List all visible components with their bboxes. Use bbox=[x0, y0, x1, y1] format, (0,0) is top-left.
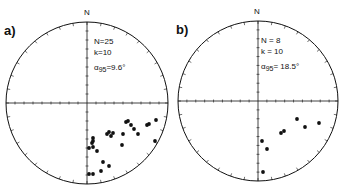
pole-point bbox=[107, 130, 111, 134]
perimeter-tick bbox=[47, 171, 49, 174]
perimeter-tick bbox=[17, 63, 20, 65]
perimeter-tick bbox=[164, 89, 167, 90]
pole-point bbox=[282, 129, 286, 133]
pole-point bbox=[153, 139, 157, 143]
perimeter-tick bbox=[155, 63, 158, 65]
perimeter-tick bbox=[231, 26, 232, 29]
perimeter-tick bbox=[218, 168, 220, 171]
perimeter-tick bbox=[7, 117, 10, 118]
perimeter-tick bbox=[73, 23, 74, 26]
pole-point bbox=[126, 119, 130, 123]
stereonet-panel-b: b) N N = 8 k = 10 α95= 18.5° bbox=[176, 7, 338, 181]
perimeter-tick bbox=[271, 177, 272, 180]
perimeter-tick bbox=[297, 168, 299, 171]
pole-point bbox=[121, 132, 125, 136]
perimeter-tick bbox=[25, 153, 27, 155]
panel-b-n-count: N = 8 bbox=[261, 36, 281, 45]
panel-b-north-label: N bbox=[254, 7, 260, 16]
perimeter-tick bbox=[284, 26, 285, 29]
panel-a-k-value: k=10 bbox=[94, 48, 112, 57]
perimeter-tick bbox=[307, 160, 309, 162]
perimeter-tick bbox=[189, 140, 192, 142]
perimeter-tick bbox=[59, 27, 60, 30]
perimeter-tick bbox=[325, 140, 328, 142]
stereonet-figure: a) N N=25 k=10 α95=9.6° b) N N = 8 k = 1… bbox=[0, 0, 353, 194]
pole-point bbox=[129, 123, 133, 127]
perimeter-tick bbox=[114, 27, 115, 30]
pole-point bbox=[107, 164, 111, 168]
perimeter-tick bbox=[330, 127, 333, 128]
perimeter-tick bbox=[207, 160, 209, 162]
perimeter-tick bbox=[189, 61, 192, 63]
perimeter-tick bbox=[160, 75, 163, 76]
perimeter-tick bbox=[147, 153, 149, 155]
perimeter-tick bbox=[334, 87, 337, 88]
perimeter-tick bbox=[25, 51, 27, 53]
pole-point bbox=[111, 131, 115, 135]
pole-point bbox=[99, 169, 103, 173]
perimeter-tick bbox=[284, 173, 285, 176]
perimeter-tick bbox=[325, 61, 328, 63]
perimeter-tick bbox=[183, 74, 186, 75]
perimeter-tick bbox=[307, 40, 309, 42]
perimeter-tick bbox=[231, 173, 232, 176]
perimeter-tick bbox=[137, 41, 139, 43]
pole-point bbox=[91, 172, 95, 176]
perimeter-tick bbox=[244, 22, 245, 25]
perimeter-tick bbox=[183, 127, 186, 128]
perimeter-tick bbox=[317, 150, 319, 152]
perimeter-tick bbox=[73, 180, 74, 183]
pole-point bbox=[295, 117, 299, 121]
perimeter-tick bbox=[35, 41, 37, 43]
perimeter-tick bbox=[11, 75, 14, 76]
panel-a-label: a) bbox=[4, 23, 16, 38]
perimeter-tick bbox=[197, 50, 199, 52]
pole-point bbox=[265, 147, 269, 151]
perimeter-tick bbox=[317, 50, 319, 52]
panel-a-north-label: N bbox=[84, 8, 90, 17]
perimeter-tick bbox=[244, 177, 245, 180]
pole-point bbox=[260, 139, 264, 143]
perimeter-tick bbox=[164, 117, 167, 118]
perimeter-tick bbox=[179, 114, 182, 115]
panel-a-n-count: N=25 bbox=[94, 37, 114, 46]
perimeter-tick bbox=[126, 33, 128, 36]
perimeter-tick bbox=[207, 40, 209, 42]
perimeter-tick bbox=[59, 176, 60, 179]
perimeter-tick bbox=[47, 33, 49, 36]
perimeter-tick bbox=[218, 32, 220, 35]
pole-point bbox=[95, 149, 99, 153]
perimeter-tick bbox=[7, 89, 10, 90]
pole-point bbox=[154, 118, 158, 122]
stereonet-a bbox=[6, 22, 168, 184]
perimeter-tick bbox=[114, 176, 115, 179]
perimeter-tick bbox=[271, 22, 272, 25]
pole-point bbox=[91, 145, 95, 149]
stereonet-panel-a: a) N N=25 k=10 α95=9.6° bbox=[4, 8, 168, 184]
perimeter-tick bbox=[179, 87, 182, 88]
pole-point bbox=[87, 172, 91, 176]
pole-point bbox=[317, 121, 321, 125]
pole-point bbox=[303, 125, 307, 129]
panel-b-label: b) bbox=[176, 22, 188, 37]
perimeter-tick bbox=[11, 130, 14, 131]
pole-point bbox=[147, 122, 151, 126]
panel-b-alpha95: α95= 18.5° bbox=[261, 62, 299, 72]
pole-point bbox=[87, 146, 91, 150]
perimeter-tick bbox=[197, 150, 199, 152]
perimeter-tick bbox=[147, 51, 149, 53]
pole-point bbox=[120, 143, 124, 147]
panel-a-alpha95: α95=9.6° bbox=[94, 63, 125, 73]
perimeter-tick bbox=[297, 32, 299, 35]
perimeter-tick bbox=[160, 130, 163, 131]
pole-point bbox=[136, 132, 140, 136]
perimeter-tick bbox=[101, 180, 102, 183]
perimeter-tick bbox=[35, 163, 37, 165]
pole-point bbox=[90, 141, 94, 145]
pole-point bbox=[101, 160, 105, 164]
pole-point bbox=[132, 127, 136, 131]
perimeter-tick bbox=[334, 114, 337, 115]
perimeter-tick bbox=[330, 74, 333, 75]
stereonet-b bbox=[178, 21, 338, 181]
pole-point bbox=[261, 170, 265, 174]
